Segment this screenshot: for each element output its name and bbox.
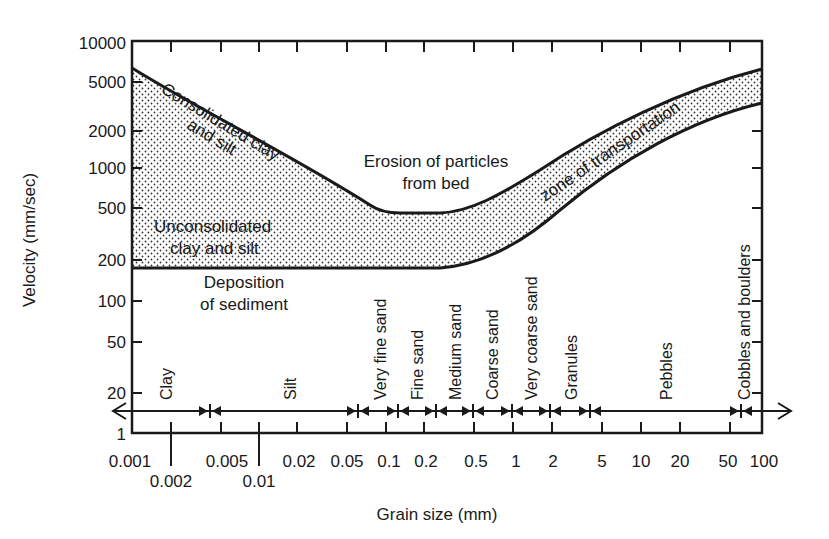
x-ticks-top [171, 41, 730, 52]
svg-text:Silt: Silt [282, 377, 299, 400]
svg-text:1: 1 [117, 425, 126, 444]
svg-text:Very coarse sand: Very coarse sand [523, 276, 540, 400]
svg-text:20: 20 [671, 452, 690, 471]
svg-text:0.2: 0.2 [414, 452, 438, 471]
svg-text:Very fine sand: Very fine sand [372, 299, 389, 400]
svg-text:2000: 2000 [88, 122, 126, 141]
erosion-label-1: Erosion of particles [364, 152, 509, 171]
svg-text:50: 50 [107, 333, 126, 352]
svg-text:10: 10 [632, 452, 651, 471]
svg-text:5: 5 [597, 452, 606, 471]
svg-text:1000: 1000 [88, 159, 126, 178]
svg-text:0.05: 0.05 [330, 452, 363, 471]
transport-zone-label: zone of transportation [537, 98, 684, 206]
svg-text:Fine sand: Fine sand [409, 330, 426, 400]
svg-text:500: 500 [98, 199, 126, 218]
svg-text:0.5: 0.5 [464, 452, 488, 471]
svg-text:Coarse sand: Coarse sand [484, 309, 501, 400]
svg-text:Clay: Clay [158, 368, 175, 400]
svg-text:100: 100 [750, 452, 778, 471]
svg-text:Medium sand: Medium sand [447, 304, 464, 400]
svg-text:200: 200 [98, 251, 126, 270]
unconsolidated-label-1: Unconsolidated [154, 217, 271, 236]
svg-text:Cobbles and boulders: Cobbles and boulders [736, 244, 753, 400]
svg-text:100: 100 [98, 292, 126, 311]
svg-text:0.01: 0.01 [242, 472, 275, 491]
svg-text:0.005: 0.005 [206, 452, 249, 471]
svg-text:2: 2 [548, 452, 557, 471]
unconsolidated-label-2: clay and silt [170, 239, 259, 258]
svg-text:Pebbles: Pebbles [658, 342, 675, 400]
svg-text:0.002: 0.002 [150, 472, 193, 491]
svg-text:0.02: 0.02 [282, 452, 315, 471]
hjulstrom-diagram: 10000 5000 2000 1000 500 200 100 50 20 1… [0, 0, 829, 539]
svg-text:0.1: 0.1 [377, 452, 401, 471]
svg-text:10000: 10000 [79, 34, 126, 53]
svg-text:0.001: 0.001 [109, 452, 152, 471]
y-axis-title: Velocity (mm/sec) [20, 173, 39, 307]
y-tick-labels: 10000 5000 2000 1000 500 200 100 50 20 1 [79, 34, 126, 444]
svg-text:20: 20 [107, 384, 126, 403]
x-axis-title: Grain size (mm) [377, 505, 498, 524]
deposition-label-1: Deposition [204, 273, 284, 292]
erosion-label-2: from bed [402, 174, 469, 193]
deposition-label-2: of sediment [200, 295, 288, 314]
svg-text:1: 1 [511, 452, 520, 471]
svg-text:50: 50 [719, 452, 738, 471]
x-tick-labels: 0.001 0.005 0.02 0.05 0.1 0.2 0.5 1 2 5 … [109, 452, 778, 491]
svg-text:Granules: Granules [563, 335, 580, 400]
svg-text:5000: 5000 [88, 73, 126, 92]
